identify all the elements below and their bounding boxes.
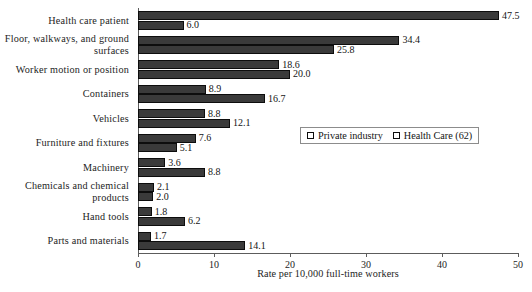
bar-health-care[interactable] (138, 207, 152, 216)
x-tick-label: 50 (513, 259, 523, 270)
bar-health-care[interactable] (138, 232, 151, 241)
bar-private-industry[interactable] (138, 241, 245, 250)
bar-value-label: 8.9 (206, 84, 222, 94)
bar-chart: Health care patientFloor, walkways, and … (0, 0, 532, 292)
bar-value-label: 8.8 (205, 109, 221, 119)
bar-value-label: 25.8 (334, 45, 355, 55)
bar-health-care[interactable] (138, 85, 206, 94)
bar-value-label: 16.7 (265, 94, 286, 104)
bar-value-label: 47.5 (499, 11, 520, 21)
category-label: Parts and materials (0, 229, 133, 254)
bar-health-care[interactable] (138, 109, 205, 118)
bar-value-label: 1.7 (151, 231, 167, 241)
x-tick-mark (290, 253, 291, 257)
bar-health-care[interactable] (138, 158, 165, 167)
category-label: Hand tools (0, 204, 133, 229)
category-label: Health care patient (0, 8, 133, 33)
category-label: Furniture and fixtures (0, 131, 133, 156)
bar-value-label: 1.8 (152, 207, 168, 217)
bar-private-industry[interactable] (138, 94, 265, 103)
legend-entry-health-care[interactable]: Health Care (62) (393, 130, 472, 141)
bar-private-industry[interactable] (138, 70, 290, 79)
bar-health-care[interactable] (138, 183, 154, 192)
bar-private-industry[interactable] (138, 168, 205, 177)
bar-value-label: 34.4 (399, 35, 420, 45)
x-tick-label: 40 (437, 259, 447, 270)
x-tick-label: 30 (361, 259, 371, 270)
bar-value-label: 20.0 (290, 69, 311, 79)
x-tick-mark (366, 253, 367, 257)
bar-private-industry[interactable] (138, 192, 153, 201)
x-tick-mark (138, 253, 139, 257)
x-axis-title: Rate per 10,000 full-time workers (138, 268, 518, 280)
legend-label: Health Care (62) (404, 130, 472, 141)
x-tick-label: 20 (285, 259, 295, 270)
x-tick-mark (518, 253, 519, 257)
bar-value-label: 7.6 (196, 133, 212, 143)
bar-private-industry[interactable] (138, 119, 230, 128)
bar-private-industry[interactable] (138, 143, 177, 152)
bar-value-label: 3.6 (165, 158, 181, 168)
bar-health-care[interactable] (138, 60, 279, 69)
x-tick-mark (442, 253, 443, 257)
legend-label: Private industry (318, 130, 383, 141)
chart-legend: Private industry Health Care (62) (300, 127, 479, 144)
legend-entry-private-industry[interactable]: Private industry (307, 130, 383, 141)
legend-swatch-icon (307, 132, 314, 139)
category-label: Worker motion or position (0, 57, 133, 82)
bar-value-label: 6.2 (185, 216, 201, 226)
x-axis-line (138, 253, 518, 254)
bar-value-label: 2.0 (153, 192, 169, 202)
x-tick-label: 10 (209, 259, 219, 270)
bar-value-label: 8.8 (205, 167, 221, 177)
x-tick-mark (214, 253, 215, 257)
bar-value-label: 14.1 (245, 241, 266, 251)
category-label: Chemicals and chemical products (0, 180, 133, 205)
bar-private-industry[interactable] (138, 45, 334, 54)
bar-private-industry[interactable] (138, 217, 185, 226)
category-label: Containers (0, 82, 133, 107)
bar-health-care[interactable] (138, 36, 399, 45)
x-tick-label: 0 (136, 259, 141, 270)
bar-value-label: 12.1 (230, 118, 251, 128)
bar-value-label: 5.1 (177, 143, 193, 153)
bar-value-label: 6.0 (184, 20, 200, 30)
legend-swatch-icon (393, 132, 400, 139)
category-axis: Health care patientFloor, walkways, and … (0, 8, 133, 253)
category-label: Vehicles (0, 106, 133, 131)
bar-private-industry[interactable] (138, 21, 184, 30)
category-label: Floor, walkways, and ground surfaces (0, 33, 133, 58)
category-label: Machinery (0, 155, 133, 180)
